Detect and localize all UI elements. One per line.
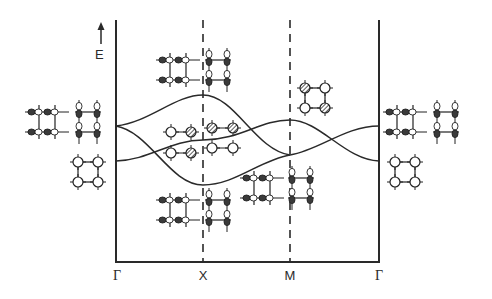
kpoint-label-x: X (199, 268, 208, 283)
band-curves (116, 95, 379, 185)
energy-axis-arrow-icon (98, 22, 105, 44)
kpoint-label-gamma-right: Γ (375, 268, 383, 284)
kpoint-label-m: M (285, 268, 296, 283)
band-structure-diagram (0, 0, 492, 299)
plot-frame (115, 20, 380, 262)
orbital-gamma-right (383, 100, 459, 190)
kpoint-label-gamma-left: Γ (113, 268, 121, 284)
energy-axis-label: E (95, 47, 104, 62)
orbital-gamma-left (25, 100, 106, 190)
